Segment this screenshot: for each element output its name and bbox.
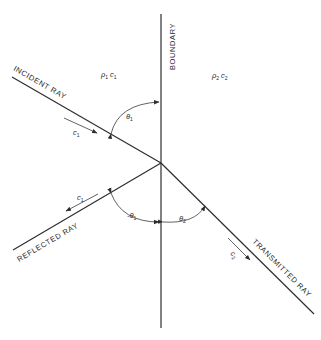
boundary-label: BOUNDARY: [168, 23, 177, 70]
transmitted-velocity-symbol: c2: [228, 249, 240, 261]
incident-angle-symbol: θ1: [126, 112, 133, 122]
transmitted-angle-symbol: θ2: [179, 214, 186, 224]
transmitted-ray-line: [161, 163, 314, 314]
incident-ray-line: [12, 77, 161, 163]
reflected-ray-line: [13, 163, 161, 250]
reflected-angle-symbol: -θ1: [127, 211, 137, 221]
ray-boundary-diagram: BOUNDARY INCIDENT RAY c1 ρ1c1 ρ2c2 θ1 RE…: [0, 0, 321, 340]
incident-ray-label: INCIDENT RAY: [12, 64, 68, 101]
reflected-velocity-symbol: c1: [77, 193, 84, 203]
medium2-label: ρ2c2: [211, 71, 228, 81]
medium1-label: ρ1c1: [100, 70, 117, 80]
incident-angle-arc: [111, 102, 159, 134]
incident-velocity-symbol: c1: [73, 128, 80, 138]
transmitted-ray-label: TRANSMITTED RAY: [251, 237, 314, 299]
incident-velocity-arrow: [64, 118, 97, 133]
